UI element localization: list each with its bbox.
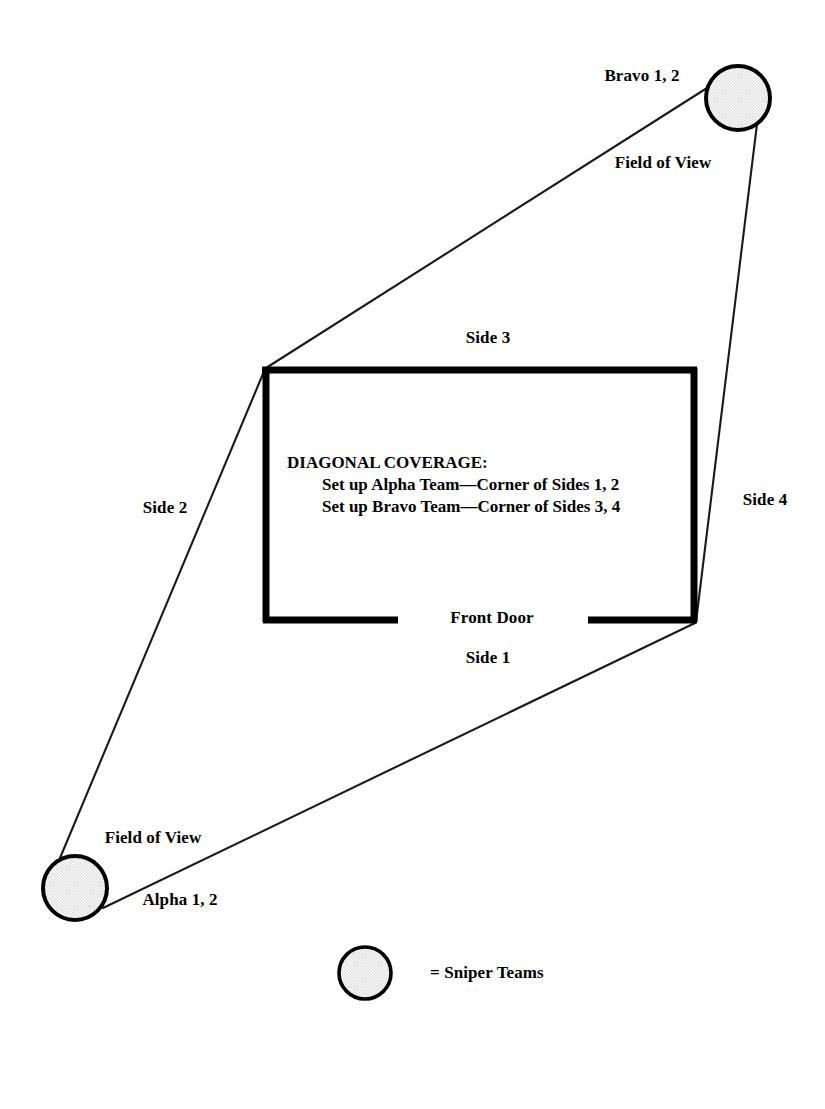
instructions-heading: DIAGONAL COVERAGE: (287, 452, 620, 474)
side-1-label: Side 1 (466, 648, 511, 668)
side-4-label: Side 4 (743, 490, 788, 510)
side-2-label: Side 2 (143, 498, 188, 518)
alpha-field-of-view-label: Field of View (105, 828, 202, 848)
legend-sniper-team-icon (339, 947, 391, 999)
alpha-team-marker-icon (43, 856, 107, 920)
bravo-team-label: Bravo 1, 2 (604, 66, 679, 86)
sniper-coverage-diagram: Bravo 1, 2 Field of View Side 3 Side 2 S… (0, 0, 825, 1109)
bravo-team-marker-icon (706, 66, 770, 130)
alpha-sight-line-lower (103, 623, 695, 908)
bravo-field-of-view-label: Field of View (615, 153, 712, 173)
front-door-label: Front Door (450, 608, 533, 628)
bravo-sight-line-upper (266, 88, 707, 368)
bravo-sight-line-lower (696, 124, 757, 622)
alpha-sight-line-upper (60, 369, 265, 858)
instructions-line-alpha: Set up Alpha Team—Corner of Sides 1, 2 (287, 474, 620, 496)
diagonal-coverage-instructions: DIAGONAL COVERAGE: Set up Alpha Team—Cor… (287, 452, 620, 518)
alpha-team-label: Alpha 1, 2 (142, 890, 217, 910)
legend-label: = Sniper Teams (430, 963, 544, 983)
side-3-label: Side 3 (466, 328, 511, 348)
instructions-line-bravo: Set up Bravo Team—Corner of Sides 3, 4 (287, 496, 620, 518)
